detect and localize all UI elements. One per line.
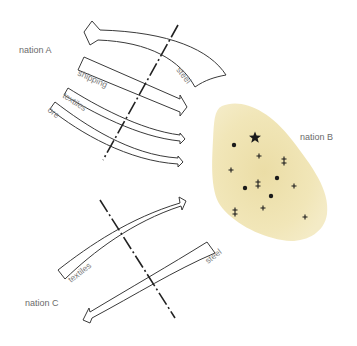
trade-flow-diagram: steel shipping textiles ore textiles ste… (0, 0, 357, 346)
flow-arrow-steel-c (83, 242, 215, 323)
nation-b-label: nation B (300, 132, 333, 142)
nation-a-label: nation A (19, 45, 52, 55)
dot-icon (243, 186, 247, 190)
dot-icon (269, 194, 273, 198)
dot-icon (232, 143, 236, 147)
dot-icon (275, 176, 279, 180)
nation-c-label: nation C (25, 298, 59, 308)
nation-b-region (212, 103, 327, 241)
